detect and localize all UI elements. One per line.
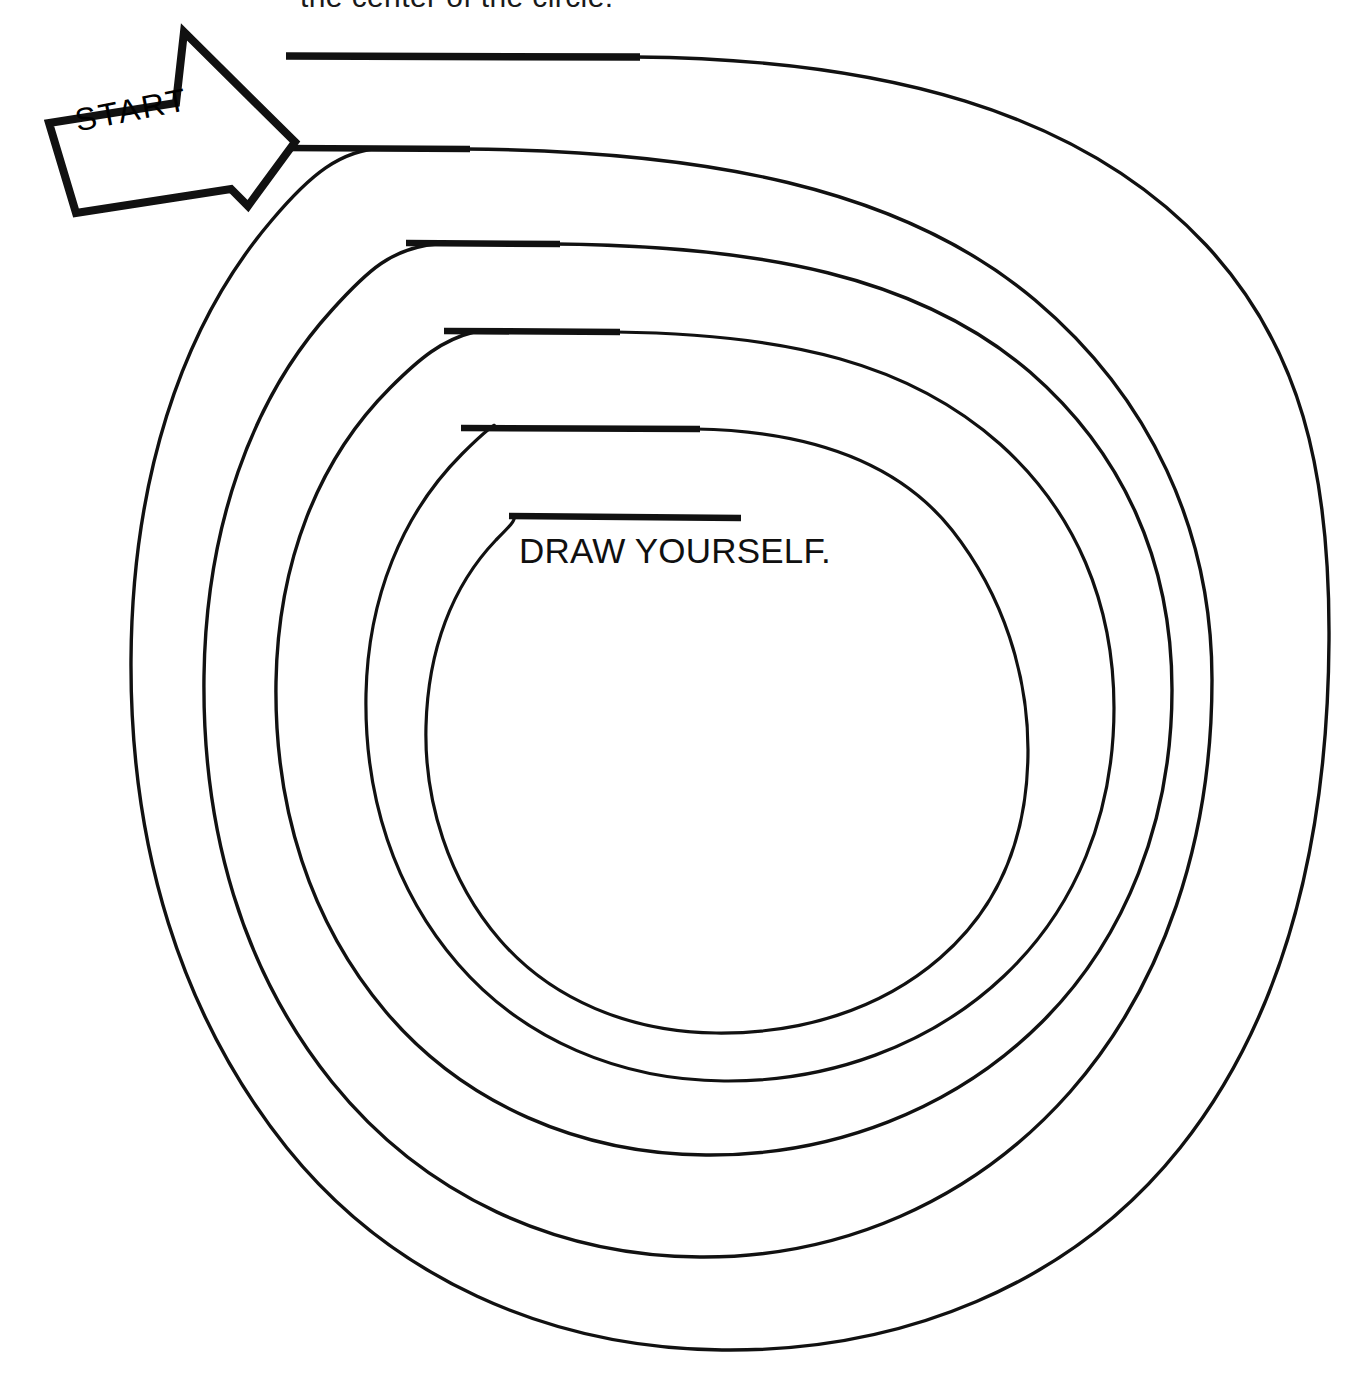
spiral-lead-line-5 xyxy=(461,428,700,429)
worksheet-canvas: the center of the circle. START DRAW YOU… xyxy=(0,0,1366,1375)
spiral-arm-3 xyxy=(276,244,1172,1155)
spiral-maze-graphic xyxy=(0,0,1366,1375)
center-prompt-text: DRAW YOURSELF. xyxy=(519,531,831,571)
spiral-lead-line-1 xyxy=(286,56,640,57)
spiral-lead-line-2 xyxy=(284,148,470,149)
spiral-arm-4 xyxy=(366,332,1114,1081)
spiral-lead-line-3 xyxy=(406,243,560,244)
spiral-lead-line-4 xyxy=(444,331,620,332)
spiral-arm-2 xyxy=(204,149,1212,1257)
center-lead-line xyxy=(509,516,741,518)
